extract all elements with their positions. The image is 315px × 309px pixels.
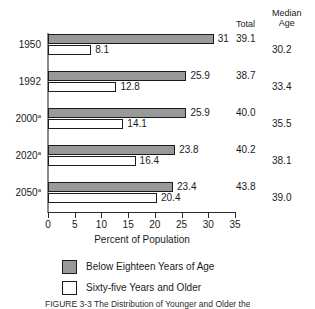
x-axis-title: Percent of Population	[48, 234, 236, 246]
legend-item-old: Sixty-five Years and Older	[62, 277, 214, 298]
bar-value-young: 23.8	[179, 145, 198, 155]
bar-young	[48, 71, 186, 81]
x-axis-tick-label: 10	[96, 219, 107, 231]
x-axis-tick	[101, 213, 102, 218]
bar-row: 1950318.1	[48, 34, 235, 56]
x-axis-tick	[208, 213, 209, 218]
x-axis-tick-label: 20	[149, 219, 160, 231]
legend-item-young: Below Eighteen Years of Age	[62, 256, 214, 277]
x-axis-tick	[128, 213, 129, 218]
plot-area: 1950318.1199225.912.82000a25.914.12020a2…	[48, 33, 235, 213]
bar-old	[48, 156, 136, 166]
bar-old	[48, 119, 123, 129]
x-axis-tick-label: 0	[45, 219, 51, 231]
chart-legend: Below Eighteen Years of Age Sixty-five Y…	[62, 256, 214, 298]
legend-swatch-young-icon	[62, 260, 77, 274]
legend-label-old: Sixty-five Years and Older	[86, 282, 201, 294]
total-value: 40.2	[236, 145, 255, 155]
bar-row: 2020a23.816.4	[48, 145, 235, 167]
legend-label-young: Below Eighteen Years of Age	[86, 261, 214, 273]
x-axis-tick	[155, 213, 156, 218]
bar-value-old: 20.4	[161, 193, 180, 203]
column-header-median-age: Median Age	[272, 8, 302, 28]
bar-row: 2050a23.420.4	[48, 182, 235, 204]
x-axis-tick-label: 30	[203, 219, 214, 231]
bar-value-young: 23.4	[177, 182, 196, 192]
column-header-median-line2: Age	[272, 18, 302, 28]
x-axis-tick	[75, 213, 76, 218]
x-axis-tick-label: 15	[123, 219, 134, 231]
column-header-median-line1: Median	[272, 8, 302, 18]
bar-value-old: 14.1	[127, 119, 146, 129]
total-value: 38.7	[236, 71, 255, 81]
bar-young	[48, 108, 186, 118]
x-axis-tick	[235, 213, 236, 218]
bar-old	[48, 193, 157, 203]
median-age-value: 38.1	[272, 156, 291, 166]
figure-caption: FIGURE 3-3 The Distribution of Younger a…	[45, 299, 250, 309]
x-axis-tick	[182, 213, 183, 218]
row-year-label: 2050a	[15, 187, 41, 199]
row-year-footnote-marker: a	[38, 187, 41, 193]
row-year-footnote-marker: a	[38, 150, 41, 156]
bar-value-old: 16.4	[140, 156, 159, 166]
row-year-label: 1992	[19, 76, 41, 88]
legend-swatch-old-icon	[62, 281, 77, 295]
bar-young	[48, 145, 175, 155]
bar-value-young: 25.9	[190, 108, 209, 118]
x-axis-tick-label: 5	[72, 219, 78, 231]
bar-value-young: 31	[218, 34, 229, 44]
x-axis-tick-label: 35	[229, 219, 240, 231]
total-value: 40.0	[236, 108, 255, 118]
row-year-label: 1950	[19, 39, 41, 51]
row-year-footnote-marker: a	[38, 113, 41, 119]
column-header-total: Total	[236, 19, 255, 29]
median-age-value: 39.0	[272, 193, 291, 203]
x-axis-tick	[48, 213, 49, 218]
bar-old	[48, 82, 116, 92]
bar-old	[48, 45, 91, 55]
row-year-label: 2020a	[15, 150, 41, 162]
bar-value-young: 25.9	[190, 71, 209, 81]
bar-row: 2000a25.914.1	[48, 108, 235, 130]
median-age-value: 35.5	[272, 119, 291, 129]
bar-value-old: 12.8	[120, 82, 139, 92]
median-age-value: 33.4	[272, 82, 291, 92]
total-value: 43.8	[236, 182, 255, 192]
median-age-value: 30.2	[272, 45, 291, 55]
bar-value-old: 8.1	[95, 45, 109, 55]
x-axis-tick-label: 25	[176, 219, 187, 231]
row-year-label: 2000a	[15, 113, 41, 125]
bar-young	[48, 34, 214, 44]
bar-row: 199225.912.8	[48, 71, 235, 93]
total-value: 39.1	[236, 34, 255, 44]
bar-young	[48, 182, 173, 192]
